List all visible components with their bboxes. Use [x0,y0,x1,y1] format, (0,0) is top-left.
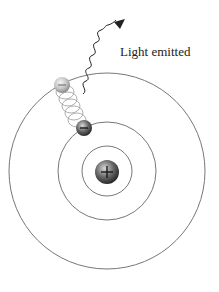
photon-wave-icon [83,20,116,94]
electron-final [76,120,92,136]
light-emitted-label: Light emitted [120,44,190,60]
electron-initial [54,77,70,93]
nucleus [95,160,119,184]
